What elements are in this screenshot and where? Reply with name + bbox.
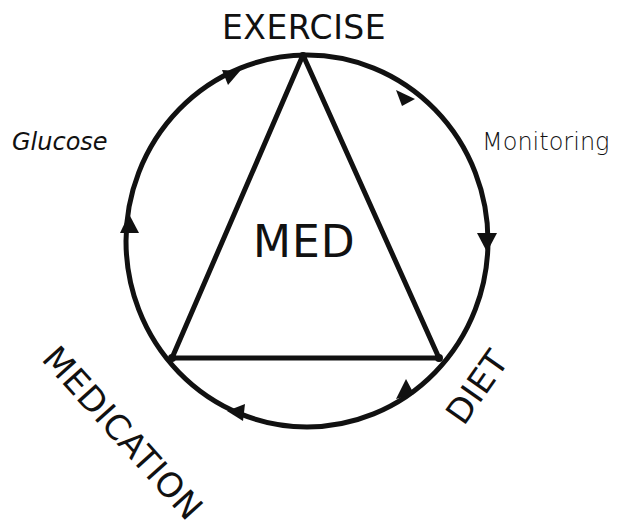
label-med-center: MED bbox=[253, 220, 356, 264]
vertex-diet bbox=[435, 354, 443, 362]
arrow-icon bbox=[120, 214, 139, 233]
arrow-icon bbox=[477, 233, 497, 252]
label-monitoring: Monitoring bbox=[482, 130, 610, 154]
label-glucose: Glucose bbox=[12, 130, 108, 154]
vertex-medication bbox=[168, 354, 176, 362]
label-exercise: EXERCISE bbox=[222, 11, 386, 44]
vertex-exercise bbox=[299, 52, 307, 60]
med-triangle bbox=[172, 55, 439, 358]
